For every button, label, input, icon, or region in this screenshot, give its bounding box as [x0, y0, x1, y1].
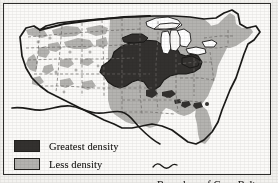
figure-frame: Greatest density Less density Boundary o… — [3, 3, 271, 175]
greatest-density-label: Greatest density — [49, 141, 119, 152]
less-density-swatch — [14, 158, 40, 170]
se-dot-2 — [165, 94, 169, 98]
legend-item-greatest-density: Greatest density — [14, 136, 119, 154]
legend-item-corn-belt-boundary: Boundary of Corn Belt — [152, 156, 270, 183]
patch-dot-3 — [55, 71, 58, 74]
wavy-line-symbol — [152, 161, 178, 171]
patch-dot-1 — [48, 36, 51, 39]
greatest-density-swatch — [14, 140, 40, 152]
legend-item-less-density: Less density — [14, 154, 102, 172]
patch-dot-2 — [68, 50, 71, 53]
patch-dot-5 — [89, 51, 92, 54]
se-dot-1 — [205, 102, 209, 106]
patch-dot-7 — [97, 65, 100, 68]
lake-michigan — [161, 31, 171, 54]
corn-belt-boundary-label: Boundary of Corn Belt — [157, 179, 256, 183]
michigan-peninsula — [170, 30, 180, 51]
patch-dot-8 — [63, 91, 66, 94]
less-density-label: Less density — [49, 159, 102, 170]
patch-dot-4 — [75, 69, 78, 72]
figure-page: Greatest density Less density Boundary o… — [0, 0, 278, 183]
